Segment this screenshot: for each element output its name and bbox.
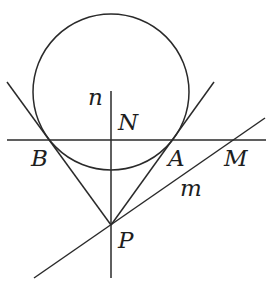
label-B: B	[30, 145, 48, 171]
line-m	[34, 118, 265, 278]
label-N: N	[117, 109, 139, 135]
tangent-line-pa	[111, 82, 214, 225]
label-m: m	[180, 175, 202, 201]
label-M: M	[223, 145, 249, 171]
label-P: P	[117, 227, 134, 253]
label-A: A	[166, 145, 185, 171]
geometry-diagram: n N B A M m P	[0, 0, 269, 281]
diagram-canvas: n N B A M m P	[0, 0, 269, 281]
label-n: n	[88, 84, 103, 110]
